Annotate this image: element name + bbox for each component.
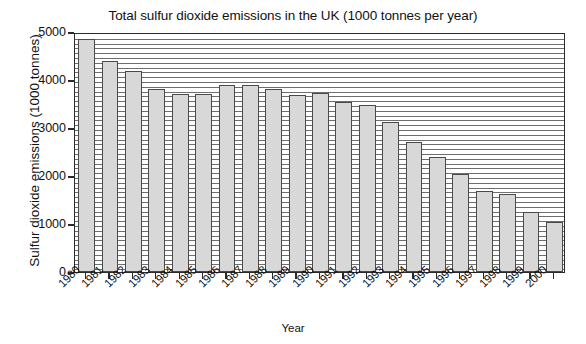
y-axis-tick-label: 4000 [10,73,66,87]
bar [78,39,95,272]
chart-title: Total sulfur dioxide emissions in the UK… [0,8,586,23]
bar [382,122,399,272]
gridline [75,63,564,64]
y-axis-tick-label: 5000 [10,25,66,39]
bar [172,94,189,272]
x-axis-tick [553,273,554,279]
gridline [75,72,564,73]
bar [499,194,516,272]
bar [523,212,540,272]
gridline [75,39,564,40]
gridline [75,68,564,69]
bar [452,174,469,272]
bar [335,102,352,272]
y-axis-tick-label: 2000 [10,169,66,183]
bar [125,71,142,272]
bar [148,89,165,272]
gridline [75,87,564,88]
bar [102,61,119,272]
gridline [75,44,564,45]
sulfur-dioxide-bar-chart: Total sulfur dioxide emissions in the UK… [0,0,586,344]
bar [406,142,423,272]
bar [242,85,259,272]
y-axis-tick-label: 0 [10,265,66,279]
x-axis-title: Year [0,322,586,334]
gridline [75,53,564,54]
bar [195,94,212,272]
bar [219,85,236,272]
bar [312,93,329,272]
bar [476,191,493,272]
bar [546,222,563,272]
y-axis-title: Sulfur dioxide emissions (1000 tonnes) [27,21,42,281]
gridline [75,48,564,49]
bar [359,105,376,272]
gridline [75,77,564,78]
y-axis-tick-label: 1000 [10,217,66,231]
y-axis-tick-label: 3000 [10,121,66,135]
plot-area [74,33,565,273]
bar [429,157,446,272]
gridline [75,58,564,59]
gridline [75,82,564,83]
bar [265,89,282,272]
bar [289,95,306,272]
